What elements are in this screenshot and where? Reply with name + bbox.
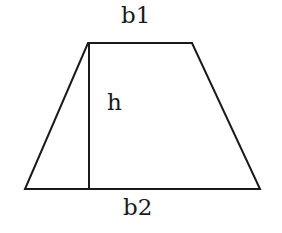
trapezoid-outline [25,43,260,189]
height-label: h [107,89,122,115]
top-base-label: b1 [121,2,150,28]
trapezoid-diagram: b1 h b2 [0,0,282,233]
bottom-base-label: b2 [123,194,152,220]
